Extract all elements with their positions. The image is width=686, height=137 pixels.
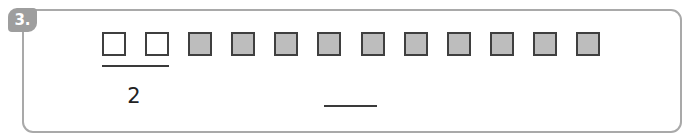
gray-square bbox=[231, 32, 255, 56]
gray-square bbox=[576, 32, 600, 56]
gray-square bbox=[533, 32, 557, 56]
gray-square bbox=[188, 32, 212, 56]
problem-number-badge: 3. bbox=[8, 8, 37, 32]
gray-square bbox=[404, 32, 428, 56]
answer-blank-line[interactable] bbox=[324, 105, 377, 107]
white-square bbox=[145, 32, 169, 56]
white-count-label: 2 bbox=[120, 84, 148, 108]
white-square bbox=[102, 32, 126, 56]
gray-square bbox=[317, 32, 341, 56]
problem-frame bbox=[22, 9, 682, 133]
gray-square bbox=[447, 32, 471, 56]
gray-square bbox=[361, 32, 385, 56]
gray-square bbox=[274, 32, 298, 56]
white-group-underline bbox=[102, 65, 169, 67]
gray-square bbox=[490, 32, 514, 56]
